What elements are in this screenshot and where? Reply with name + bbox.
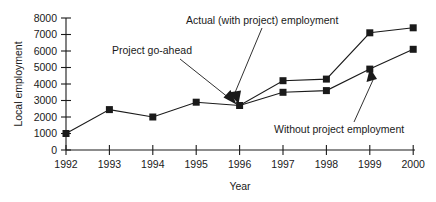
y-tick-label: 1000 (34, 127, 58, 139)
x-tick-label: 1995 (185, 158, 209, 170)
annotation-actual-with-project-leader (234, 28, 262, 95)
x-tick-label: 1994 (141, 158, 165, 170)
x-tick-label: 1992 (54, 158, 78, 170)
x-tick-label: 2000 (402, 158, 426, 170)
employment-line-chart: 0 1000 2000 3000 4000 5000 6000 7000 800… (0, 0, 436, 202)
y-tick-label: 6000 (34, 45, 58, 57)
x-tick-label: 1996 (228, 158, 252, 170)
series-markers-without-project (280, 46, 417, 96)
x-tick-label: 1993 (98, 158, 122, 170)
y-tick-label: 0 (51, 144, 57, 156)
y-tick-label: 2000 (34, 111, 58, 123)
x-tick-label: 1997 (271, 158, 295, 170)
y-tick-label: 8000 (34, 12, 58, 24)
annotation-without-project-leader (354, 80, 373, 122)
y-tick-label: 3000 (34, 94, 58, 106)
y-axis-tick-labels: 0 1000 2000 3000 4000 5000 6000 7000 800… (34, 12, 58, 156)
chart-canvas: 0 1000 2000 3000 4000 5000 6000 7000 800… (0, 0, 436, 202)
x-tick-label: 1998 (315, 158, 339, 170)
y-tick-label: 7000 (34, 28, 58, 40)
x-axis-tick-labels: 1992 1993 1994 1995 1996 1997 1998 1999 … (54, 158, 425, 170)
annotation-project-go-ahead-leader (180, 59, 229, 98)
x-tick-label: 1999 (358, 158, 382, 170)
x-axis-title: Year (229, 180, 251, 192)
y-tick-label: 5000 (34, 61, 58, 73)
annotation-actual-with-project-label: Actual (with project) employment (186, 14, 338, 26)
annotation-without-project-label: Without project employment (274, 123, 404, 135)
annotation-project-go-ahead-label: Project go-ahead (112, 44, 192, 56)
y-tick-label: 4000 (34, 78, 58, 90)
y-axis-title: Local employment (12, 41, 24, 126)
